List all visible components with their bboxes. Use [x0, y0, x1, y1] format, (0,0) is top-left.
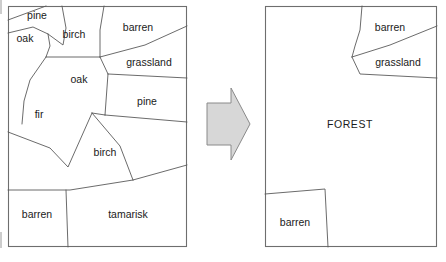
parcel-label-oak-mid: oak: [71, 73, 89, 85]
parcel-label-pine-top: pine: [27, 9, 47, 21]
parcel-label-barren-bot: barren: [280, 216, 311, 228]
parcel-label-birch-mid: birch: [94, 146, 117, 158]
parcel-label-barren-bot: barren: [22, 208, 53, 220]
parcel-label-fir: fir: [35, 108, 44, 120]
parcel-label-oak-top: oak: [17, 32, 35, 44]
right-map: barren grassland FOREST barren: [265, 6, 437, 247]
figure-canvas: pine oak birch barren grassland oak pine…: [0, 0, 446, 262]
parcel-label-pine-right: pine: [137, 95, 157, 107]
parcel-label-barren-top: barren: [123, 21, 154, 33]
vegetation-generalization-figure: pine oak birch barren grassland oak pine…: [0, 0, 446, 262]
parcel-label-barren-top: barren: [375, 21, 406, 33]
left-map: pine oak birch barren grassland oak pine…: [8, 6, 187, 247]
parcel-label-grassland: grassland: [126, 56, 172, 68]
transform-arrow: [207, 88, 250, 160]
parcel-label-tamarisk: tamarisk: [108, 208, 148, 220]
parcel-label-forest: FOREST: [327, 118, 373, 130]
parcel-label-grassland: grassland: [375, 56, 421, 68]
parcel-label-birch-top: birch: [63, 28, 86, 40]
